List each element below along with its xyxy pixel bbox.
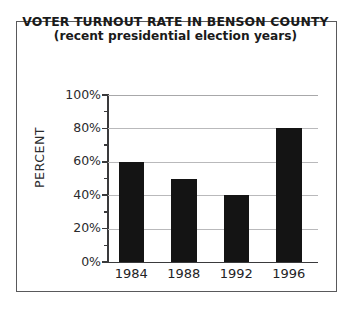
y-axis-title: PERCENT: [32, 113, 47, 203]
y-tick-minor-30: [104, 211, 108, 213]
y-tick-minor-10: [104, 245, 108, 247]
y-tick-label-wrap-20: 20%: [48, 222, 101, 234]
y-tick-minor-90: [104, 111, 108, 113]
bar-1984: [119, 162, 145, 262]
gridline-100: [108, 95, 318, 96]
y-tick-major-100: [102, 94, 108, 96]
bar-1996: [276, 128, 302, 262]
x-tick-label-1992: 1992: [206, 266, 266, 281]
y-tick-label-20: 20%: [73, 222, 101, 234]
bar-1988: [171, 179, 197, 263]
y-tick-major-0: [102, 261, 108, 263]
y-tick-major-20: [102, 228, 108, 230]
x-tick-label-1988: 1988: [154, 266, 214, 281]
y-tick-label-80: 80%: [73, 122, 101, 134]
y-tick-label-0: 0%: [81, 256, 101, 268]
y-tick-label-wrap-0: 0%: [48, 256, 101, 268]
plot-area: [108, 95, 318, 262]
y-tick-major-40: [102, 194, 108, 196]
x-tick-label-1996: 1996: [259, 266, 319, 281]
chart-figure: VOTER TURNOUT RATE IN BENSON COUNTY (rec…: [0, 0, 351, 311]
y-tick-label-wrap-80: 80%: [48, 122, 101, 134]
y-tick-label-60: 60%: [73, 155, 101, 167]
y-tick-label-40: 40%: [73, 189, 101, 201]
y-tick-label-wrap-40: 40%: [48, 189, 101, 201]
y-tick-label-100: 100%: [65, 89, 101, 101]
y-tick-label-wrap-100: 100%: [48, 89, 101, 101]
y-tick-major-60: [102, 161, 108, 163]
y-tick-major-80: [102, 128, 108, 130]
y-tick-minor-70: [104, 144, 108, 146]
y-tick-minor-50: [104, 178, 108, 180]
bar-1992: [224, 195, 250, 262]
y-tick-label-wrap-60: 60%: [48, 155, 101, 167]
x-tick-label-1984: 1984: [101, 266, 161, 281]
